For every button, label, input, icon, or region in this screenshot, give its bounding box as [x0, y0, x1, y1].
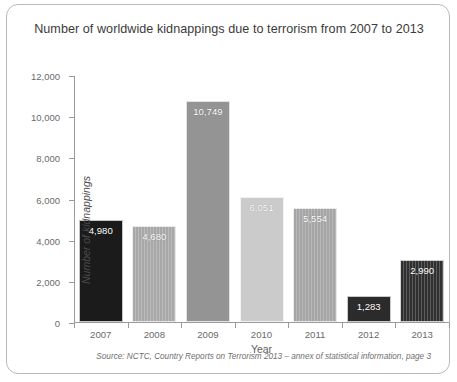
- bar[interactable]: 2,990: [400, 260, 444, 322]
- y-axis-tick-label: 2,000: [36, 276, 60, 287]
- y-axis-tick: 2,000: [69, 282, 74, 283]
- x-axis-tick: [235, 323, 236, 328]
- x-axis-label: 2008: [128, 329, 182, 340]
- bar-value-label: 5,554: [294, 213, 336, 224]
- x-axis-label: 2007: [74, 329, 128, 340]
- x-axis-tick: [449, 323, 450, 328]
- bar-value-label: 10,749: [187, 106, 229, 117]
- bar[interactable]: 5,554: [293, 208, 337, 322]
- bar-value-label: 2,990: [401, 265, 443, 276]
- y-axis-tick: 10,000: [69, 117, 74, 118]
- y-axis-tick: 4,000: [69, 241, 74, 242]
- y-axis-tick: 6,000: [69, 200, 74, 201]
- x-axis-tick: [342, 323, 343, 328]
- x-axis-tick: [181, 323, 182, 328]
- x-axis-line: [74, 322, 449, 323]
- bar-value-label: 1,283: [348, 301, 390, 312]
- bar-value-label: 4,680: [133, 231, 175, 242]
- bar-value-label: 6,051: [241, 202, 283, 213]
- y-axis-line: [74, 76, 75, 323]
- chart-title: Number of worldwide kidnappings due to t…: [7, 22, 451, 36]
- bar[interactable]: 10,749: [186, 101, 230, 322]
- plot-area: 02,0004,0006,0008,00010,00012,000 4,9804…: [74, 76, 449, 323]
- y-axis-tick-label: 0: [55, 318, 60, 329]
- bar[interactable]: 1,283: [347, 296, 391, 322]
- x-axis-label: 2012: [342, 329, 396, 340]
- x-axis-tick: [74, 323, 75, 328]
- y-axis-tick: 12,000: [69, 76, 74, 77]
- y-axis-tick-label: 6,000: [36, 194, 60, 205]
- bar[interactable]: 6,051: [240, 197, 284, 322]
- x-axis-label: 2009: [181, 329, 235, 340]
- source-note: Source: NCTC, Country Reports on Terrori…: [96, 352, 431, 361]
- x-axis-tick: [395, 323, 396, 328]
- y-axis-tick-label: 10,000: [31, 112, 60, 123]
- chart-frame: Number of worldwide kidnappings due to t…: [6, 4, 450, 374]
- x-axis-tick: [288, 323, 289, 328]
- y-axis-title: Number of kidnappings: [80, 150, 92, 310]
- x-axis-label: 2010: [235, 329, 289, 340]
- x-axis-tick: [128, 323, 129, 328]
- y-axis-tick: 8,000: [69, 158, 74, 159]
- y-axis-tick-label: 8,000: [36, 153, 60, 164]
- x-axis-label: 2013: [395, 329, 449, 340]
- y-axis-tick-label: 4,000: [36, 235, 60, 246]
- x-axis-label: 2011: [288, 329, 342, 340]
- y-axis-tick-label: 12,000: [31, 71, 60, 82]
- bar[interactable]: 4,680: [132, 226, 176, 322]
